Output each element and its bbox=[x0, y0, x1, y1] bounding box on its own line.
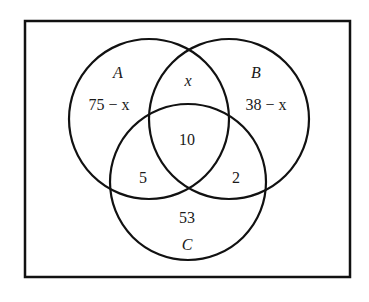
b-only-value: 38 − x bbox=[245, 96, 286, 113]
ac-only-value: 5 bbox=[139, 169, 147, 186]
set-b-label: B bbox=[251, 64, 261, 81]
c-only-value: 53 bbox=[179, 209, 195, 226]
abc-value: 10 bbox=[179, 131, 195, 148]
ab-only-value: x bbox=[183, 72, 191, 89]
venn-diagram: A 75 − x B 38 − x x 10 5 2 53 C bbox=[0, 0, 369, 302]
bc-only-value: 2 bbox=[232, 169, 240, 186]
set-c-label: C bbox=[182, 236, 193, 253]
a-only-value: 75 − x bbox=[88, 96, 129, 113]
set-a-label: A bbox=[112, 64, 123, 81]
